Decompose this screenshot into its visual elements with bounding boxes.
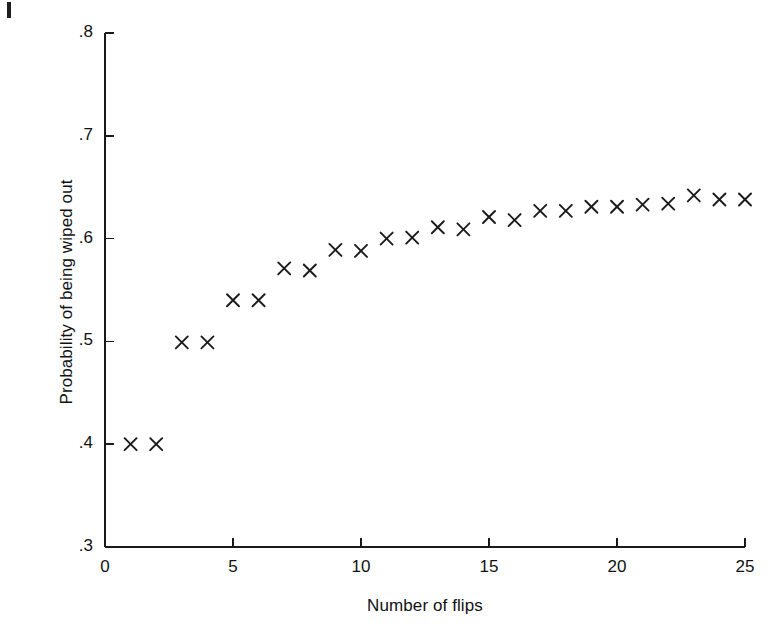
data-point-marker bbox=[534, 205, 546, 217]
x-tick-label: 5 bbox=[213, 557, 253, 577]
data-point-marker bbox=[688, 189, 700, 201]
chart-figure: .3.4.5.6.7.8 0510152025 Probability of b… bbox=[0, 0, 779, 635]
x-tick-label: 10 bbox=[341, 557, 381, 577]
data-point-marker bbox=[125, 438, 137, 450]
y-tick-label: .8 bbox=[53, 22, 93, 42]
x-tick-label: 0 bbox=[85, 557, 125, 577]
data-point-marker bbox=[304, 264, 316, 276]
data-point-marker bbox=[509, 214, 521, 226]
data-point-marker bbox=[201, 336, 213, 348]
data-point-marker bbox=[278, 262, 290, 274]
data-point-markers bbox=[125, 189, 751, 450]
data-point-marker bbox=[739, 194, 751, 206]
data-point-marker bbox=[355, 245, 367, 257]
data-point-marker bbox=[150, 438, 162, 450]
x-tick-label: 15 bbox=[469, 557, 509, 577]
x-tick-label: 25 bbox=[725, 557, 765, 577]
data-point-marker bbox=[662, 198, 674, 210]
x-axis-title: Number of flips bbox=[305, 596, 545, 616]
y-axis-title: Probability of being wiped out bbox=[57, 112, 77, 472]
data-point-marker bbox=[227, 294, 239, 306]
data-point-marker bbox=[253, 294, 265, 306]
y-tick-label: .3 bbox=[53, 536, 93, 556]
x-tick-label: 20 bbox=[597, 557, 637, 577]
data-point-marker bbox=[611, 201, 623, 213]
data-point-marker bbox=[483, 211, 495, 223]
data-point-marker bbox=[176, 336, 188, 348]
data-point-marker bbox=[585, 201, 597, 213]
data-point-marker bbox=[637, 199, 649, 211]
data-point-marker bbox=[457, 223, 469, 235]
data-point-marker bbox=[560, 205, 572, 217]
data-point-marker bbox=[381, 233, 393, 245]
data-point-marker bbox=[432, 221, 444, 233]
scatter-plot-canvas bbox=[0, 0, 779, 635]
data-point-marker bbox=[406, 232, 418, 244]
data-point-marker bbox=[713, 194, 725, 206]
plot-axes bbox=[105, 33, 745, 547]
data-point-marker bbox=[329, 244, 341, 256]
